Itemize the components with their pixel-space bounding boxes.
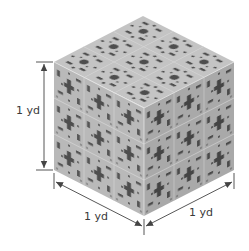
depth-label: 1 yd	[84, 211, 108, 222]
height-label: 1 yd	[16, 105, 40, 116]
width-label: 1 yd	[189, 207, 213, 218]
